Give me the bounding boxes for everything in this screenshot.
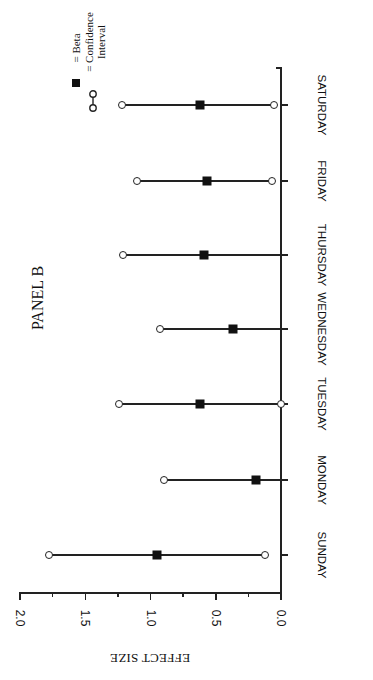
confidence-interval-line (164, 479, 281, 481)
legend-beta-label: = Beta (70, 33, 82, 62)
category-label: THURSDAY (316, 224, 328, 286)
beta-square-icon (153, 551, 162, 560)
ci-lower-circle-icon (270, 101, 278, 109)
beta-square-icon (196, 400, 205, 409)
panel-label: PANEL B (29, 266, 47, 330)
category-tick (282, 328, 288, 330)
ci-upper-circle-icon (115, 400, 123, 408)
x-tick (52, 592, 54, 597)
legend-ci-label-line1: = Confidence (83, 12, 95, 72)
legend: = Beta = Confidence Interval (58, 2, 118, 112)
ci-upper-circle-icon (118, 101, 126, 109)
x-tick (248, 592, 250, 597)
beta-square-icon (196, 101, 205, 110)
ci-lower-circle-icon (268, 177, 276, 185)
beta-square-icon (72, 79, 80, 87)
category-label: SUNDAY (316, 531, 328, 578)
ci-lower-circle-icon (261, 551, 269, 559)
x-tick (85, 592, 87, 600)
beta-square-icon (202, 177, 211, 186)
ci-upper-circle-icon (119, 251, 127, 259)
legend-ci-label-line2: Interval (95, 25, 107, 59)
category-tick (282, 254, 288, 256)
x-tick (117, 592, 119, 597)
category-axis-top-tick (276, 67, 281, 69)
x-tick (182, 592, 184, 597)
x-tick (19, 592, 21, 600)
beta-square-icon (252, 476, 261, 485)
category-tick (282, 554, 288, 556)
category-label: TUESDAY (316, 377, 328, 430)
category-label: SATURDAY (316, 75, 328, 136)
ci-lower-circle-icon (277, 400, 285, 408)
x-tick (280, 592, 282, 600)
ci-upper-circle-icon (133, 177, 141, 185)
x-tick-label: 2.0 (13, 610, 27, 627)
beta-square-icon (228, 325, 237, 334)
ci-upper-circle-icon (156, 325, 164, 333)
x-tick-label: 1.5 (78, 610, 92, 627)
legend-ci-label: = Confidence Interval (83, 12, 107, 72)
x-tick-label: 0.0 (274, 610, 288, 627)
category-label: WEDNESDAY (316, 292, 328, 365)
ci-upper-circle-icon (160, 476, 168, 484)
confidence-interval-icon (88, 90, 98, 112)
category-tick (282, 180, 288, 182)
x-tick-label: 0.5 (209, 610, 223, 627)
beta-square-icon (200, 251, 209, 260)
x-tick (150, 592, 152, 600)
ci-upper-circle-icon (45, 551, 53, 559)
category-label: FRIDAY (316, 160, 328, 201)
category-tick (282, 479, 288, 481)
x-tick-label: 1.0 (144, 610, 158, 627)
category-tick (282, 104, 288, 106)
category-axis-line (280, 67, 282, 594)
x-axis-label: EFFECT SIZE (110, 650, 191, 666)
x-tick (215, 592, 217, 600)
category-label: MONDAY (316, 455, 328, 505)
confidence-interval-line (160, 328, 281, 330)
